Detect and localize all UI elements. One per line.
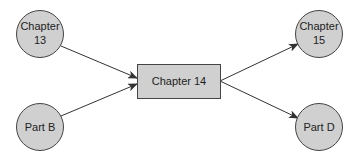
node-chapter-14: Chapter 14 <box>138 65 221 99</box>
node-chapter-13-label-line2: 13 <box>34 34 46 46</box>
node-chapter-13: Chapter 13 <box>17 11 64 58</box>
node-chapter-13-label-line1: Chapter <box>20 20 59 32</box>
node-chapter-15-label-line2: 15 <box>313 34 325 46</box>
node-part-b: Part B <box>17 104 64 151</box>
edge-chapter14-to-partd <box>220 81 298 118</box>
node-part-b-label: Part B <box>25 121 56 133</box>
node-part-d: Part D <box>296 104 343 151</box>
node-part-d-label: Part D <box>303 121 334 133</box>
edge-chapter13-to-chapter14 <box>61 46 137 78</box>
node-chapter-15: Chapter 15 <box>296 11 343 58</box>
node-chapter-15-label-line1: Chapter <box>299 20 338 32</box>
edge-partb-to-chapter14 <box>61 84 137 116</box>
edge-chapter14-to-chapter15 <box>220 44 298 81</box>
node-chapter-14-label: Chapter 14 <box>152 75 206 87</box>
flow-diagram: Chapter 13 Part B Chapter 14 Chapter 15 … <box>0 0 361 161</box>
